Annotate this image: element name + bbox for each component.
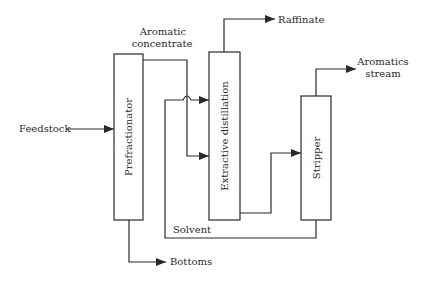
aromatics-stream: Aromatics stream: [316, 56, 409, 96]
extract-to-stripper-stream: [240, 153, 301, 213]
extract-to-stripper-arrow-icon: [240, 153, 301, 213]
aromatics-label-1: Aromatics: [356, 56, 408, 67]
raffinate-stream: Raffinate: [224, 14, 324, 52]
aromatic-concentrate-label-2: concentrate: [132, 38, 193, 49]
raffinate-label: Raffinate: [278, 14, 324, 25]
feedstock-label: Feedstock: [19, 123, 71, 134]
bottoms-arrow-icon: [129, 220, 166, 262]
raffinate-arrow-icon: [224, 19, 275, 52]
aromatics-arrow-icon: [316, 69, 356, 96]
feedstock-stream: Feedstock: [19, 123, 114, 134]
solvent-label: Solvent: [173, 224, 211, 235]
prefractionator-unit[interactable]: Prefractionator: [114, 54, 143, 220]
stripper-unit[interactable]: Stripper: [301, 96, 331, 220]
bottoms-label: Bottoms: [170, 256, 212, 267]
stripper-label: Stripper: [311, 137, 322, 180]
aromatic-concentrate-arrow-icon: [143, 60, 209, 156]
process-flow-diagram: Prefractionator Extractive distillation …: [0, 0, 423, 282]
aromatic-concentrate-label-1: Aromatic: [139, 26, 187, 37]
extractive-distillation-unit[interactable]: Extractive distillation: [209, 52, 240, 220]
extractive-distillation-label: Extractive distillation: [219, 81, 230, 191]
aromatics-label-2: stream: [365, 68, 401, 79]
prefractionator-label: Prefractionator: [123, 98, 134, 176]
